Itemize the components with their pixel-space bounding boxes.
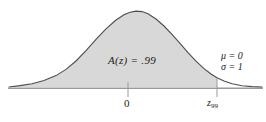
normal-distribution-figure: A(z) = .99 μ = 0 σ = 1 0 z99 <box>0 0 266 122</box>
z-label-subscript: 99 <box>211 102 218 110</box>
mean-parameter-label: μ = 0 <box>221 51 243 61</box>
z99-tick-label: z99 <box>207 98 218 110</box>
sigma-parameter-label: σ = 1 <box>221 62 243 72</box>
area-label: A(z) = .99 <box>108 55 156 66</box>
center-tick-label: 0 <box>124 98 130 109</box>
